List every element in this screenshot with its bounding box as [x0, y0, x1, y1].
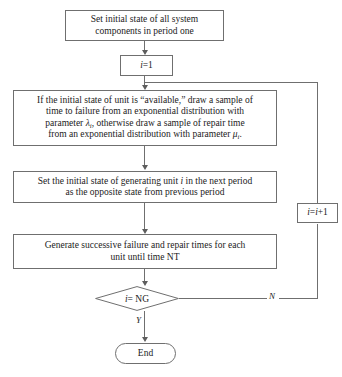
connector-setstate-to-generate — [144, 203, 145, 229]
node-initialize-i-label: i=1 — [136, 60, 157, 71]
node-decision-i-equals-ng: i = NG — [95, 286, 179, 311]
connector-no-branch-horizontal-b — [279, 298, 318, 299]
connector-sample-to-setstate — [144, 146, 145, 166]
connector-generate-to-decision — [144, 269, 145, 281]
flowchart-canvas: Set initial state of all systemcomponent… — [0, 0, 342, 377]
node-initialize-i: i=1 — [120, 55, 173, 76]
node-set-opposite-state: Set the initial state of generating unit… — [13, 171, 277, 203]
node-set-opposite-state-label: Set the initial state of generating unit… — [34, 176, 257, 198]
node-end: End — [115, 343, 176, 364]
node-increment-i: i=i+1 — [297, 203, 338, 223]
edge-label-no: N — [268, 292, 276, 301]
connector-yes-branch-vertical — [144, 311, 145, 338]
node-draw-sample: If the initial state of unit is “availab… — [13, 90, 277, 146]
node-end-label: End — [134, 348, 157, 359]
connector-no-branch-horizontal-a — [179, 298, 267, 299]
node-generate-times: Generate successive failure and repair t… — [13, 234, 277, 269]
edge-label-yes: Y — [135, 316, 142, 325]
node-set-initial-state-label: Set initial state of all systemcomponent… — [87, 14, 202, 36]
node-draw-sample-label: If the initial state of unit is “availab… — [33, 95, 257, 141]
node-increment-i-label: i=i+1 — [303, 207, 332, 218]
node-generate-times-label: Generate successive failure and repair t… — [41, 240, 250, 262]
arrowhead-into-setstate — [142, 165, 148, 170]
connector-feedback-horizontal — [144, 82, 318, 83]
node-decision-label: i = NG — [95, 286, 179, 311]
connector-increment-to-feedback — [317, 82, 318, 203]
connector-no-branch-vertical-up-lower — [317, 224, 318, 299]
node-set-initial-state: Set initial state of all systemcomponent… — [65, 10, 224, 41]
arrowhead-into-end — [142, 337, 148, 342]
